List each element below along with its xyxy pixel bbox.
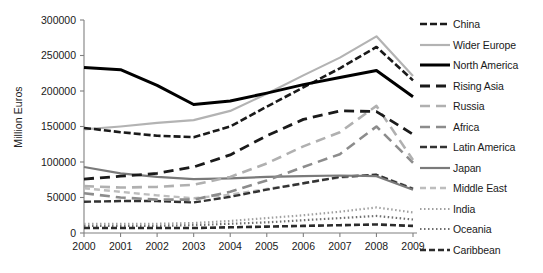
legend-label: India (453, 203, 475, 215)
legend-swatch-india-icon (420, 203, 450, 215)
legend-item-africa[interactable]: Africa (420, 117, 543, 138)
legend-label: Wider Europe (453, 39, 516, 51)
svg-text:250000: 250000 (41, 49, 76, 61)
svg-text:200000: 200000 (41, 85, 76, 97)
line-chart: Million Euros 05000010000015000020000025… (0, 0, 543, 273)
legend-item-india[interactable]: India (420, 199, 543, 220)
legend-swatch-north-america-icon (420, 59, 450, 71)
y-axis-ticks: 050000100000150000200000250000300000 (41, 14, 84, 239)
svg-text:2003: 2003 (182, 240, 206, 252)
series-line-india (84, 207, 413, 223)
svg-text:2002: 2002 (145, 240, 169, 252)
svg-text:2005: 2005 (255, 240, 279, 252)
legend-swatch-japan-icon (420, 162, 450, 174)
svg-text:0: 0 (70, 227, 76, 239)
legend-item-wider-europe[interactable]: Wider Europe (420, 35, 543, 56)
legend-item-rising-asia[interactable]: Rising Asia (420, 76, 543, 97)
chart-legend: ChinaWider EuropeNorth AmericaRising Asi… (420, 14, 543, 260)
legend-label: Caribbean (453, 244, 501, 256)
legend-swatch-wider-europe-icon (420, 39, 450, 51)
data-series-group (84, 36, 413, 228)
legend-swatch-russia-icon (420, 100, 450, 112)
svg-text:2001: 2001 (109, 240, 133, 252)
svg-text:2000: 2000 (72, 240, 96, 252)
legend-swatch-africa-icon (420, 121, 450, 133)
legend-item-russia[interactable]: Russia (420, 96, 543, 117)
legend-item-china[interactable]: China (420, 14, 543, 35)
legend-swatch-oceania-icon (420, 223, 450, 235)
legend-item-caribbean[interactable]: Caribbean (420, 240, 543, 261)
legend-item-oceania[interactable]: Oceania (420, 219, 543, 240)
legend-item-japan[interactable]: Japan (420, 158, 543, 179)
svg-text:2008: 2008 (365, 240, 389, 252)
svg-text:50000: 50000 (47, 191, 76, 203)
legend-item-middle-east[interactable]: Middle East (420, 178, 543, 199)
series-line-north-america (84, 68, 413, 105)
svg-text:150000: 150000 (41, 120, 76, 132)
legend-label: Russia (453, 100, 485, 112)
legend-swatch-caribbean-icon (420, 244, 450, 256)
series-line-africa (84, 127, 413, 200)
legend-label: China (453, 18, 480, 30)
legend-label: Japan (453, 162, 481, 174)
legend-swatch-latin-america-icon (420, 141, 450, 153)
legend-label: Africa (453, 121, 479, 133)
legend-item-latin-america[interactable]: Latin America (420, 137, 543, 158)
legend-label: Oceania (453, 223, 491, 235)
legend-label: North America (453, 59, 518, 71)
legend-label: Latin America (453, 141, 515, 153)
legend-label: Rising Asia (453, 80, 504, 92)
svg-text:300000: 300000 (41, 14, 76, 26)
legend-swatch-middle-east-icon (420, 182, 450, 194)
legend-item-north-america[interactable]: North America (420, 55, 543, 76)
x-axis-ticks: 2000200120022003200420052006200720082009 (72, 233, 425, 252)
series-line-china (84, 47, 413, 137)
legend-swatch-china-icon (420, 18, 450, 30)
svg-text:2007: 2007 (328, 240, 352, 252)
legend-label: Middle East (453, 182, 507, 194)
svg-text:2004: 2004 (219, 240, 243, 252)
legend-swatch-rising-asia-icon (420, 80, 450, 92)
svg-text:2006: 2006 (292, 240, 316, 252)
svg-text:100000: 100000 (41, 156, 76, 168)
